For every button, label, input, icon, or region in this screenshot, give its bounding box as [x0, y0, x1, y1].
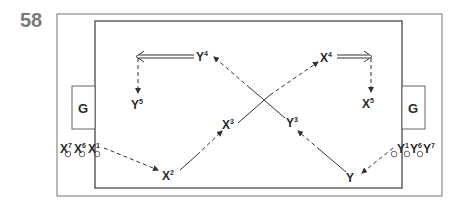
left-goal-label: G: [78, 101, 88, 116]
svg-text:Y6: Y6: [410, 142, 422, 156]
pass-y1-y3: [298, 131, 320, 150]
player-x5: X5: [362, 97, 374, 111]
pass-y3-y4: [214, 57, 250, 88]
left-goal: G: [72, 86, 95, 129]
player-x7-x6-x1-group: X7 X6 X1: [60, 142, 100, 157]
pass-y1-y1: [362, 148, 393, 173]
run-y1-y3a: [320, 150, 346, 172]
run-x3-x4a: [238, 95, 270, 123]
right-goal: G: [402, 86, 425, 129]
pass-x3-x4: [270, 62, 318, 95]
svg-text:X6: X6: [74, 142, 86, 156]
pass-x2-x3: [197, 131, 222, 155]
pass-x1-x2: [104, 148, 158, 170]
run-y3-y4a: [250, 88, 285, 118]
player-y5: Y5: [131, 98, 143, 112]
svg-text:Y1: Y1: [397, 142, 409, 156]
svg-text:Y7: Y7: [423, 142, 435, 156]
player-y4: Y4: [196, 50, 208, 64]
dribble-y4: [136, 51, 194, 62]
player-y1: Y: [346, 171, 354, 185]
player-x3: X3: [222, 118, 234, 132]
dribble-x4: [337, 51, 372, 62]
player-x2: X2: [162, 169, 174, 183]
player-y1-y6-y7-group: Y1 Y6 Y7: [391, 142, 435, 157]
run-x2-x3a: [180, 155, 197, 170]
drill-diagram: G G X7 X6 X1 X2 X3 X4 X5 Y1: [0, 0, 466, 209]
player-x4: X4: [320, 51, 332, 65]
player-y3: Y3: [286, 116, 298, 130]
outer-frame: [57, 14, 442, 196]
right-goal-label: G: [408, 101, 418, 116]
svg-text:X7: X7: [60, 142, 72, 156]
